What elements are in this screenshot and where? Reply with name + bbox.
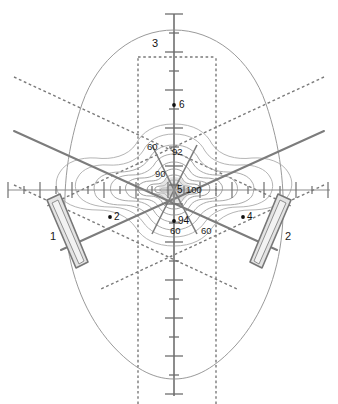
- contour-label-90: 90: [155, 169, 166, 179]
- marker-point-5-label: 5: [177, 185, 183, 195]
- axis-label-3: 3: [152, 38, 158, 49]
- marker-point-94-label: 94: [178, 216, 189, 226]
- marker-point-4-label: 4: [247, 212, 253, 222]
- transducer-element-1-aperture: [52, 200, 84, 264]
- marker-point-2-dot: [108, 215, 112, 219]
- figure-canvas: 3609290100606062494512: [0, 0, 338, 404]
- contour-label-60-lower-left: 60: [170, 226, 181, 236]
- marker-point-6-label: 6: [179, 100, 185, 110]
- contour-label-60-lower-right: 60: [201, 226, 212, 236]
- marker-point-6-dot: [172, 103, 176, 107]
- acoustic-field-diagram: [0, 0, 338, 404]
- transducer-label-1: 1: [50, 231, 56, 242]
- marker-point-94-dot: [172, 219, 176, 223]
- contour-label-100: 100: [186, 185, 202, 195]
- marker-point-4-dot: [241, 215, 245, 219]
- transducer-label-2: 2: [285, 231, 291, 242]
- contour-label-60-upper-left: 60: [147, 142, 158, 152]
- vertical-axis-ticks: [165, 14, 183, 394]
- marker-point-2-label: 2: [114, 212, 120, 222]
- contour-label-92: 92: [172, 147, 183, 157]
